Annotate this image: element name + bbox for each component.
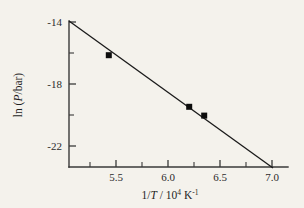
y-axis-title-pre: ln ( xyxy=(12,101,25,117)
y-tick-label-1: -14 xyxy=(47,16,62,28)
y-tick-label-3: -22 xyxy=(47,140,62,152)
plot-canvas: -14 -18 -22 5.5 6.0 6.5 7.0 1/T / 104 K-… xyxy=(0,0,304,208)
x-tick-label-4: 7.0 xyxy=(265,171,279,183)
x-axis-title-mid: / 10 xyxy=(157,189,178,201)
x-tick-label-1: 5.5 xyxy=(109,171,123,183)
data-point-3 xyxy=(201,113,207,119)
x-tick-label-3: 6.5 xyxy=(213,171,227,183)
data-point-1 xyxy=(106,52,112,58)
x-axis-title: 1/T / 104 K-1 xyxy=(142,188,199,201)
y-axis-title-post: /bar) xyxy=(12,73,25,95)
y-tick-label-2: -18 xyxy=(47,78,62,90)
data-point-2 xyxy=(186,104,192,110)
x-axis-title-unit: K xyxy=(181,189,193,201)
y-axis-title-variable: P xyxy=(12,95,24,103)
x-tick-label-2: 6.0 xyxy=(161,171,175,183)
fit-line xyxy=(69,21,273,168)
chart-figure: -14 -18 -22 5.5 6.0 6.5 7.0 1/T / 104 K-… xyxy=(0,0,304,208)
y-axis-title: ln (P/bar) xyxy=(12,73,25,118)
x-axis-title-exponent-2: -1 xyxy=(192,188,198,197)
